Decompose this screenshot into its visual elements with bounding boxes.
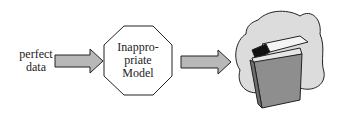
arrow-right-icon bbox=[181, 50, 231, 74]
input-label-line2: data bbox=[14, 61, 58, 74]
arrow-right-icon bbox=[55, 49, 103, 73]
model-label: Inappro- priate Model bbox=[104, 41, 172, 80]
input-label: perfect data bbox=[14, 48, 58, 74]
model-label-line3: Model bbox=[104, 67, 172, 80]
